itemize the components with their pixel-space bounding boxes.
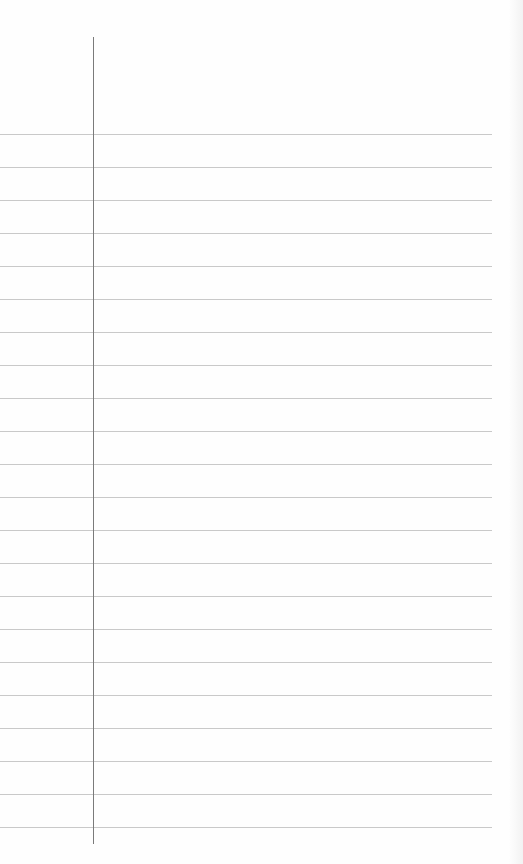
ruled-line bbox=[0, 332, 492, 333]
ruled-line bbox=[0, 596, 492, 597]
ruled-line bbox=[0, 629, 492, 630]
ruled-line bbox=[0, 794, 492, 795]
ruled-line bbox=[0, 695, 492, 696]
lined-paper bbox=[0, 0, 523, 864]
ruled-line bbox=[0, 299, 492, 300]
margin-line bbox=[93, 37, 94, 844]
ruled-line bbox=[0, 431, 492, 432]
ruled-line bbox=[0, 497, 492, 498]
ruled-line bbox=[0, 464, 492, 465]
ruled-line bbox=[0, 761, 492, 762]
ruled-line bbox=[0, 728, 492, 729]
ruled-line bbox=[0, 233, 492, 234]
ruled-line bbox=[0, 365, 492, 366]
ruled-line bbox=[0, 266, 492, 267]
ruled-line bbox=[0, 563, 492, 564]
page-edge-shadow bbox=[509, 0, 523, 864]
ruled-line bbox=[0, 200, 492, 201]
ruled-line bbox=[0, 827, 492, 828]
ruled-line bbox=[0, 398, 492, 399]
ruled-line bbox=[0, 167, 492, 168]
ruled-line bbox=[0, 662, 492, 663]
ruled-line bbox=[0, 134, 492, 135]
ruled-line bbox=[0, 530, 492, 531]
